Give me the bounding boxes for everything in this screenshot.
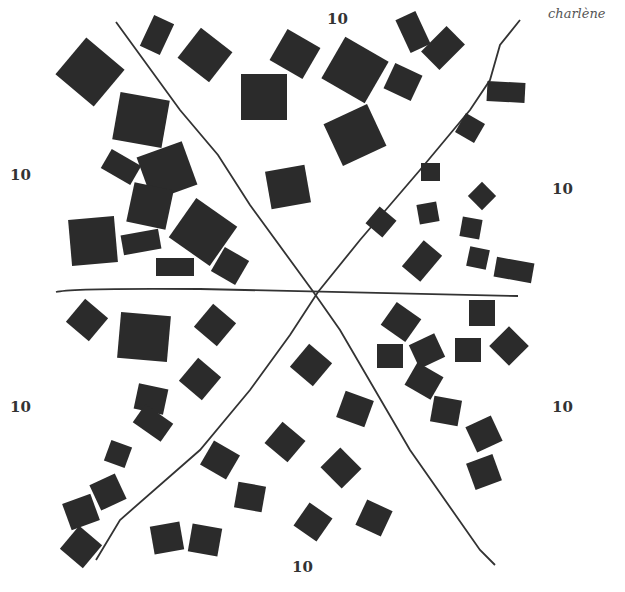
square-shape <box>117 312 171 362</box>
square-shape <box>466 246 490 270</box>
square-shape <box>455 338 481 362</box>
square-shape <box>156 258 194 276</box>
signature: charlène <box>548 6 606 21</box>
square-shape <box>487 81 526 103</box>
sector-label-upper-left: 10 <box>10 166 31 184</box>
sector-label-lower-right: 10 <box>552 398 573 416</box>
diagram-canvas: 101010101010 charlène <box>0 0 625 592</box>
square-shape <box>430 396 462 426</box>
sector-label-upper-right: 10 <box>552 180 573 198</box>
sector-label-top: 10 <box>327 10 348 28</box>
square-shape <box>416 201 439 224</box>
divider-line <box>56 289 518 296</box>
square-shape <box>469 300 495 326</box>
square-shape <box>241 74 287 120</box>
square-shape <box>188 524 222 557</box>
square-shape <box>150 522 184 555</box>
square-shape <box>68 216 118 266</box>
square-shape <box>421 163 440 181</box>
square-shape <box>265 165 311 209</box>
square-shape <box>459 216 482 239</box>
sector-label-lower-left: 10 <box>10 398 31 416</box>
square-shape <box>112 92 170 148</box>
sector-label-bottom: 10 <box>292 558 313 576</box>
square-shape <box>126 182 173 229</box>
square-shape <box>377 344 403 368</box>
square-shape <box>234 482 266 512</box>
